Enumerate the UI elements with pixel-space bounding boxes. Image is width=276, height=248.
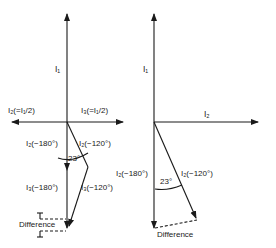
label-i1: I₁ <box>55 64 60 74</box>
label-i2-120: I₂(−120°) <box>181 169 213 178</box>
label-difference: Difference <box>19 220 56 229</box>
label-i2: I₂ <box>204 109 210 119</box>
right-phasor-diagram <box>154 14 258 228</box>
i3-120-vector <box>69 167 88 226</box>
label-i2-120: I₂(−120°) <box>79 139 111 148</box>
right-labels: I₁ I₂ I₂(−180°) I₂(−120°) 23° Difference <box>116 64 213 239</box>
label-i3-120: I₃(−120°) <box>81 183 113 192</box>
label-i1: I₁ <box>143 64 148 74</box>
label-angle: 23° <box>160 177 172 186</box>
difference-dash <box>155 220 197 228</box>
left-phasor-diagram <box>12 14 123 237</box>
label-i2-180: I₂(−180°) <box>26 139 58 148</box>
label-i3-half: I₃(=I₁/2) <box>81 106 108 115</box>
left-labels: I₁ I₂(=I₁/2) I₃(=I₁/2) I₂(−180°) I₂(−120… <box>8 64 113 229</box>
label-i3-180: I₃(−180°) <box>26 183 58 192</box>
phasor-diagram: I₁ I₂(=I₁/2) I₃(=I₁/2) I₂(−180°) I₂(−120… <box>0 0 276 248</box>
label-angle: 23° <box>68 154 80 163</box>
label-i2-180: I₂(−180°) <box>116 169 148 178</box>
label-i2-half: I₂(=I₁/2) <box>8 106 35 115</box>
label-difference: Difference <box>157 230 194 239</box>
